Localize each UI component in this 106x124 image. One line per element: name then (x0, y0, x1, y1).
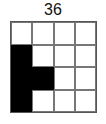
empty-cell (32, 90, 53, 113)
filled-cell (11, 90, 32, 113)
empty-cell (54, 45, 75, 68)
empty-cell (75, 90, 96, 113)
empty-cell (32, 45, 53, 68)
filled-cell (32, 67, 53, 90)
filled-cell (11, 45, 32, 68)
empty-cell (54, 90, 75, 113)
empty-cell (75, 22, 96, 45)
empty-cell (11, 22, 32, 45)
empty-cell (75, 67, 96, 90)
empty-cell (32, 22, 53, 45)
empty-cell (54, 22, 75, 45)
empty-cell (54, 67, 75, 90)
empty-cell (75, 45, 96, 68)
filled-cell (11, 67, 32, 90)
cell-grid (10, 21, 97, 113)
figure-number: 36 (0, 1, 106, 19)
